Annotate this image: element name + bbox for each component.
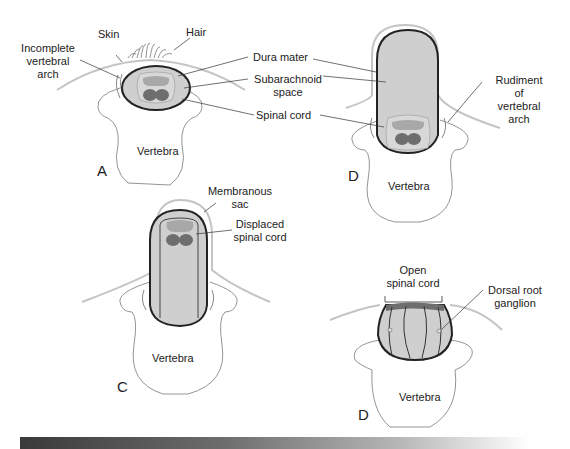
label-drg: Dorsal root ganglion (488, 284, 542, 310)
label-vertebra-b: Vertebra (388, 180, 430, 193)
label-vertebra-a: Vertebra (137, 145, 179, 158)
label-hair: Hair (186, 26, 206, 39)
panel-letter-d: D (358, 406, 369, 423)
label-membranous-sac: Membranous sac (208, 185, 272, 211)
label-dura-mater: Dura mater (253, 51, 308, 64)
caption-bar (20, 437, 530, 449)
label-open-cord: Open spinal cord (386, 264, 439, 290)
label-spinal-cord: Spinal cord (256, 109, 311, 122)
label-incomplete-arch: Incomplete vertebral arch (21, 42, 75, 81)
label-skin: Skin (98, 28, 119, 41)
panel-d-illustration (330, 296, 502, 427)
label-rudiment: Rudiment of vertebral arch (494, 74, 545, 126)
panel-letter-c: C (117, 378, 128, 395)
label-vertebra-c: Vertebra (152, 352, 194, 365)
panel-letter-a: A (97, 162, 107, 179)
label-subarachnoid: Subarachnoid space (254, 73, 322, 99)
panel-letter-b: D (348, 167, 359, 184)
panel-a-illustration (57, 43, 245, 185)
label-displaced-cord: Displaced spinal cord (233, 218, 286, 244)
label-vertebra-d: Vertebra (399, 391, 441, 404)
hair-icon (128, 43, 172, 58)
